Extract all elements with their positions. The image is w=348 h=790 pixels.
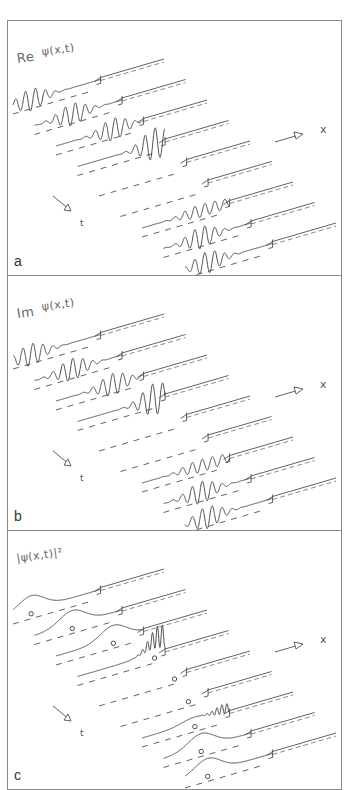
time-slice xyxy=(185,223,336,276)
baseline-dashed xyxy=(121,704,200,727)
classical-position-marker xyxy=(29,612,33,616)
baseline-dashed xyxy=(78,408,157,431)
time-slice xyxy=(35,80,186,135)
baseline-dashed xyxy=(185,255,264,276)
x-axis-label: x xyxy=(320,633,327,646)
time-slice xyxy=(99,141,250,196)
real-part-curve xyxy=(13,80,101,111)
real-part-curve xyxy=(142,199,230,228)
panel-b: xt Imψ(x,t) b xyxy=(7,275,342,531)
time-slice xyxy=(142,182,293,237)
x-axis-label: x xyxy=(320,123,327,136)
time-slice xyxy=(164,458,315,513)
density-curve xyxy=(13,590,101,610)
imag-part-curve xyxy=(78,383,166,422)
time-slice xyxy=(99,651,250,706)
quantity-prefix: Re xyxy=(16,49,35,66)
x-axis-label: x xyxy=(320,378,327,391)
baseline-dashed xyxy=(121,194,200,217)
panel-letter-b: b xyxy=(14,508,22,524)
baseline-dashed xyxy=(142,724,221,747)
baseline-dashed xyxy=(78,153,157,176)
baseline-dashed xyxy=(35,112,114,135)
classical-position-marker xyxy=(172,677,176,681)
classical-position-marker xyxy=(111,641,115,645)
time-slice xyxy=(164,203,315,258)
baseline-dashed xyxy=(35,622,114,645)
plot-density: xt xyxy=(7,531,342,790)
time-slice xyxy=(13,569,164,624)
baseline-dashed xyxy=(164,745,243,768)
time-slice xyxy=(13,59,164,114)
classical-position-marker xyxy=(70,626,74,630)
baseline-dashed xyxy=(78,663,157,686)
baseline-dashed xyxy=(164,235,243,258)
baseline-dashed xyxy=(142,469,221,492)
time-slice xyxy=(56,355,207,410)
time-slice xyxy=(142,692,293,747)
classical-position-marker xyxy=(205,774,209,778)
t-axis-arrow-icon xyxy=(53,706,71,721)
x-axis-arrow-icon xyxy=(275,642,303,652)
density-curve xyxy=(142,704,230,738)
baseline-dashed xyxy=(99,683,178,706)
panel-a: xt Reψ(x,t) a xyxy=(7,20,342,276)
classical-position-marker xyxy=(199,749,203,753)
baseline-dashed xyxy=(13,601,92,624)
baseline-dashed xyxy=(13,346,92,369)
baseline-dashed xyxy=(99,173,178,196)
baseline-dashed xyxy=(56,642,135,665)
baseline-dashed xyxy=(99,428,178,451)
baseline-dashed xyxy=(185,765,264,788)
quantity-prefix: Im xyxy=(16,304,35,321)
x-axis-arrow-icon xyxy=(275,387,303,397)
panel-c: xt |ψ(x,t)|² c xyxy=(7,530,342,790)
baseline-dashed xyxy=(121,449,200,472)
t-axis-label: t xyxy=(80,473,84,483)
classical-position-marker xyxy=(152,656,156,660)
time-slice xyxy=(121,672,272,727)
imag-part-curve xyxy=(142,455,230,483)
time-slice xyxy=(35,335,186,390)
baseline-dashed xyxy=(56,132,135,155)
t-axis-label: t xyxy=(80,728,84,738)
t-axis-arrow-icon xyxy=(53,451,71,466)
baseline-dashed xyxy=(142,214,221,237)
real-part-curve xyxy=(185,244,273,274)
time-slice xyxy=(185,478,336,531)
time-slice xyxy=(185,733,336,788)
time-slice xyxy=(35,590,186,645)
time-slice xyxy=(13,314,164,369)
time-slice xyxy=(78,376,229,431)
time-slice xyxy=(121,417,272,472)
panel-letter-c: c xyxy=(14,767,21,783)
x-axis-arrow-icon xyxy=(275,132,303,142)
time-slice xyxy=(99,396,250,451)
time-slice xyxy=(56,100,207,155)
classical-position-marker xyxy=(186,700,190,704)
density-curve xyxy=(56,625,144,656)
panel-letter-a: a xyxy=(14,253,22,269)
density-curve xyxy=(78,625,166,676)
time-slice xyxy=(78,121,229,176)
t-axis-label: t xyxy=(80,218,84,228)
t-axis-arrow-icon xyxy=(53,196,71,211)
classical-position-marker xyxy=(193,724,197,728)
time-slice xyxy=(56,610,207,665)
imag-part-curve xyxy=(13,335,101,367)
time-slice xyxy=(142,437,293,492)
density-curve xyxy=(185,754,273,777)
